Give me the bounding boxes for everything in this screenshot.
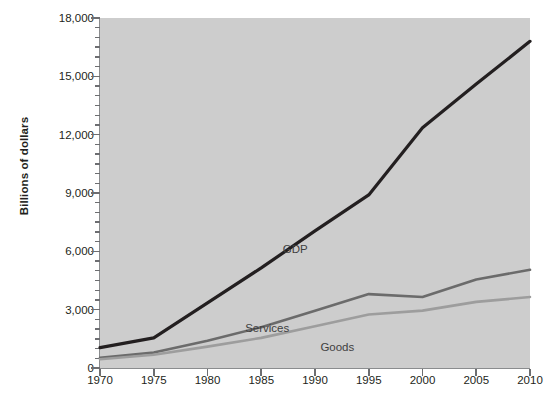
x-axis-tick-label: 1980	[178, 374, 238, 386]
x-axis-tick-label: 2010	[500, 374, 555, 386]
x-axis-tick-label: 2000	[393, 374, 453, 386]
series-label-gdp: GDP	[283, 243, 308, 255]
series-line-services	[100, 270, 530, 358]
x-axis-tick-label: 1985	[231, 374, 291, 386]
x-axis-tick-label: 1975	[124, 374, 184, 386]
series-label-services: Services	[245, 322, 289, 334]
gdp-line-chart: Billions of dollars 03,0006,0009,00012,0…	[0, 0, 555, 405]
x-axis-tick-label: 1970	[70, 374, 130, 386]
x-axis-tick-label: 2005	[446, 374, 506, 386]
series-lines	[0, 0, 555, 405]
x-axis-tick-label: 1995	[339, 374, 399, 386]
series-label-goods: Goods	[320, 341, 354, 353]
x-axis-tick-label: 1990	[285, 374, 345, 386]
series-line-gdp	[100, 41, 530, 347]
